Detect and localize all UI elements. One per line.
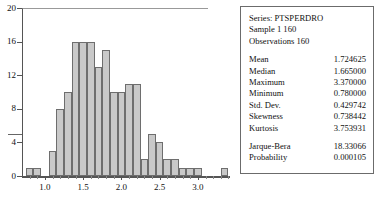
statistic-row: Maximum3.370000 xyxy=(249,77,366,88)
x-axis-minor-tick xyxy=(183,176,184,179)
histogram-bar xyxy=(56,109,64,176)
series-name: Series: PTSPERDRO xyxy=(249,13,366,24)
histogram-bar xyxy=(156,142,164,176)
y-axis-tick xyxy=(17,8,22,9)
histogram-bar xyxy=(194,168,202,176)
x-axis-minor-tick xyxy=(152,176,153,179)
statistic-row: Minimum0.780000 xyxy=(249,88,366,99)
y-axis-tick xyxy=(17,42,22,43)
x-axis-minor-tick xyxy=(213,176,214,179)
statistics-panel: Series: PTSPERDRO Sample 1 160 Observati… xyxy=(240,6,374,174)
histogram-chart: 048121620 1.01.52.02.53.0 xyxy=(0,0,232,203)
histogram-bar xyxy=(49,151,57,176)
stat-label: Median xyxy=(249,66,279,77)
descriptive-statistics-list: Mean1.724625Median1.665000Maximum3.37000… xyxy=(249,54,366,134)
x-axis-minor-tick xyxy=(68,176,69,179)
histogram-bar xyxy=(64,92,72,176)
statistic-row: Skewness0.738442 xyxy=(249,111,366,122)
x-axis-minor-tick xyxy=(60,176,61,179)
y-axis-tick-label: 20 xyxy=(0,4,16,13)
y-axis-tick xyxy=(17,75,22,76)
histogram-bar xyxy=(171,159,179,176)
y-axis-tick xyxy=(17,109,22,110)
test-statistic-row: Probability0.000105 xyxy=(249,152,366,163)
stat-value: 0.429742 xyxy=(334,100,366,111)
stat-value: 0.738442 xyxy=(334,111,366,122)
stat-label: Mean xyxy=(249,54,273,65)
x-axis-minor-tick xyxy=(106,176,107,179)
stat-value: 1.665000 xyxy=(334,66,366,77)
histogram-bar xyxy=(102,50,110,176)
histogram-bars xyxy=(22,8,230,176)
histogram-bar xyxy=(95,67,103,176)
histogram-bar xyxy=(79,42,87,176)
x-axis-minor-tick xyxy=(167,176,168,179)
x-axis-minor-tick xyxy=(53,176,54,179)
x-axis-minor-tick xyxy=(221,176,222,179)
x-axis-minor-tick xyxy=(30,176,31,179)
stat-value: 18.33066 xyxy=(334,141,366,152)
stat-value: 1.724625 xyxy=(334,54,366,65)
histogram-bar xyxy=(33,168,41,176)
normality-test-list: Jarque-Bera18.33066Probability0.000105 xyxy=(249,141,366,164)
x-axis-minor-tick xyxy=(137,176,138,179)
stat-value: 0.780000 xyxy=(334,88,366,99)
x-axis-minor-tick xyxy=(91,176,92,179)
stat-label: Skewness xyxy=(249,111,287,122)
stat-value: 0.000105 xyxy=(334,152,366,163)
histogram-bar xyxy=(163,159,171,176)
stats-spacer-top xyxy=(249,47,366,54)
histogram-bar xyxy=(26,168,34,176)
histogram-bar xyxy=(110,92,118,176)
histogram-bar xyxy=(141,159,149,176)
y-axis-tick-label: 4 xyxy=(0,138,16,147)
stat-value: 3.370000 xyxy=(334,77,366,88)
stat-label: Minimum xyxy=(249,88,287,99)
histogram-bar xyxy=(72,42,80,176)
statistics-header: Series: PTSPERDRO Sample 1 160 Observati… xyxy=(249,13,366,47)
stat-value: 3.753931 xyxy=(334,123,366,134)
x-axis-minor-tick xyxy=(144,176,145,179)
stat-label: Jarque-Bera xyxy=(249,141,295,152)
test-statistic-row: Jarque-Bera18.33066 xyxy=(249,141,366,152)
x-axis-minor-tick xyxy=(228,176,229,179)
stats-spacer-mid xyxy=(249,134,366,141)
histogram-bar xyxy=(186,168,194,176)
y-axis-tick-label: 0 xyxy=(0,172,16,181)
histogram-bar xyxy=(125,84,133,176)
y-axis-tick-label: 8 xyxy=(0,104,16,113)
x-axis-tick xyxy=(45,176,46,180)
y-axis-minor-rule xyxy=(8,134,22,135)
x-axis-minor-tick xyxy=(114,176,115,179)
x-axis-tick xyxy=(121,176,122,180)
stat-label: Kurtosis xyxy=(249,123,282,134)
stat-label: Maximum xyxy=(249,77,289,88)
x-axis-minor-tick xyxy=(37,176,38,179)
statistic-row: Std. Dev.0.429742 xyxy=(249,100,366,111)
histogram-bar xyxy=(148,134,156,176)
sample-range: Sample 1 160 xyxy=(249,24,366,35)
y-axis-tick xyxy=(17,176,22,177)
histogram-bar xyxy=(179,168,187,176)
observations-count: Observations 160 xyxy=(249,36,366,47)
histogram-output-panel: 048121620 1.01.52.02.53.0 Series: PTSPER… xyxy=(0,0,381,203)
x-axis-tick xyxy=(160,176,161,180)
y-axis-tick xyxy=(17,142,22,143)
statistic-row: Median1.665000 xyxy=(249,66,366,77)
statistic-row: Mean1.724625 xyxy=(249,54,366,65)
y-axis-tick-label: 16 xyxy=(0,37,16,46)
histogram-bar xyxy=(221,168,229,176)
x-axis-tick-label: 2.0 xyxy=(116,182,127,192)
x-axis-minor-tick xyxy=(98,176,99,179)
x-axis-minor-tick xyxy=(129,176,130,179)
x-axis-minor-tick xyxy=(175,176,176,179)
x-axis-tick-label: 1.0 xyxy=(39,182,50,192)
x-axis-tick xyxy=(198,176,199,180)
x-axis-minor-tick xyxy=(206,176,207,179)
x-axis-tick-label: 2.5 xyxy=(154,182,165,192)
statistic-row: Kurtosis3.753931 xyxy=(249,123,366,134)
stat-label: Probability xyxy=(249,152,291,163)
histogram-bar xyxy=(118,92,126,176)
histogram-bar xyxy=(87,42,95,176)
x-axis-minor-tick xyxy=(190,176,191,179)
